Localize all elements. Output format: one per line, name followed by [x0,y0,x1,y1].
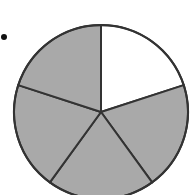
bullet-dot [1,34,7,40]
fraction-circle-figure [0,0,192,195]
